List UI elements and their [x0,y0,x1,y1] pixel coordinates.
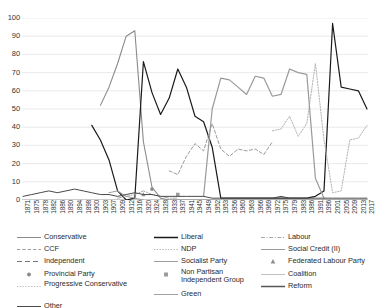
series-ndp [272,64,367,193]
legend-key-icon [260,243,286,255]
x-axis-tick-label: 1920 [146,200,153,214]
legend-item[interactable]: Coalition [260,268,379,280]
legend-label: CCF [44,243,59,253]
legend-key [16,268,44,280]
legend-label: Reform [288,280,312,290]
legend-key-icon [16,280,42,292]
legend-key-icon [153,243,179,255]
series-ccf [169,124,272,175]
x-axis-tick-label: 1941 [189,200,196,214]
legend-item[interactable]: Non Partisan Independent Group [153,268,263,288]
y-axis-tick-label: 90 [0,32,20,40]
legend-item[interactable]: Provincial Party [16,268,151,280]
x-axis-tick-label: 1949 [206,200,213,214]
x-axis-tick-label: 1991 [318,200,325,214]
legend-key [260,268,288,280]
legend-item[interactable]: Labour [260,231,379,243]
plot-svg [22,18,368,200]
x-axis-tick-label: 1928 [163,200,170,214]
legend-item[interactable]: Other [16,300,151,308]
legend-label: Socialist Party [181,255,227,265]
legend-label: Liberal [181,231,203,241]
x-axis-tick-label: 1933 [172,200,179,214]
x-axis-tick-label: 1937 [180,200,187,214]
x-axis-tick-label: 1903 [103,200,110,214]
legend-key-icon [260,231,286,243]
y-axis-tick-label: 0 [0,196,20,204]
legend-key [260,243,288,255]
x-axis-tick-label: 2005 [344,200,351,214]
legend-label: Other [44,300,62,308]
x-axis-tick-label: 1894 [77,200,84,214]
legend-label: Coalition [288,268,316,278]
x-axis-tick-label: 1986 [309,200,316,214]
legend-label: Independent [44,255,85,265]
legend-key [16,280,44,292]
x-axis-tick-label: 1924 [154,200,161,214]
x-axis-tick-label: 2013 [361,200,368,214]
legend-item[interactable]: Independent [16,255,151,267]
legend-key-icon [153,288,179,300]
series-line [272,64,367,193]
series-provincial-party [150,187,154,191]
legend-item[interactable]: Reform [260,280,379,292]
legend-key [16,231,44,243]
x-axis-tick-label: 2001 [335,200,342,214]
legend-column-3: LabourSocial Credit (II)Federated Labour… [260,231,379,292]
y-axis-tick-label: 10 [0,178,20,186]
legend-key [16,300,44,308]
x-axis-tick-label: 1979 [292,200,299,214]
x-axis-tick-label: 1900 [94,200,101,214]
legend-item[interactable]: NDP [153,243,263,255]
series-social-credit-ii- [204,69,324,198]
legend-key-icon [16,255,42,267]
x-axis-tick-label: 1907 [111,200,118,214]
x-axis-tick-label: 1871 [25,200,32,214]
y-axis-tick-label: 80 [0,50,20,58]
y-axis-tick-label: 70 [0,69,20,77]
legend-key [153,255,181,267]
x-axis-tick-label: 1975 [283,200,290,214]
x-axis-tick-label: 1878 [43,200,50,214]
legend-label: Green [181,288,201,298]
x-axis-tick-label: 1912 [129,200,136,214]
chart-legend: ConservativeCCFIndependentProvincial Par… [8,231,370,305]
data-point [176,193,180,197]
legend-column-2: LiberalNDPSocialist PartyNon Partisan In… [153,231,263,300]
legend-key [260,255,288,267]
legend-key [153,288,181,300]
legend-label: Social Credit (II) [288,243,340,253]
legend-key [260,231,288,243]
series-line [92,23,367,200]
x-axis-tick-label: 1956 [232,200,239,214]
x-axis-tick-label: 1972 [275,200,282,214]
y-axis-tick-label: 40 [0,123,20,131]
series-liberal [92,23,367,200]
legend-key [153,231,181,243]
legend-item[interactable]: Federated Labour Party [260,255,379,267]
y-axis-tick-label: 60 [0,87,20,95]
legend-item[interactable]: Green [153,288,263,300]
x-axis-tick-label: 1898 [86,200,93,214]
legend-key-icon [153,255,179,267]
legend-key-icon [16,243,42,255]
legend-item[interactable]: Progressive Conservative [16,280,151,300]
legend-item[interactable]: Social Credit (II) [260,243,379,255]
legend-label: Progressive Conservative [44,280,127,288]
x-axis-tick-label: 1945 [197,200,204,214]
legend-item[interactable]: CCF [16,243,151,255]
x-axis-tick-label: 1963 [249,200,256,214]
x-axis-tick-label: 1960 [240,200,247,214]
x-axis-tick-label: 1952 [215,200,222,214]
legend-item[interactable]: Liberal [153,231,263,243]
y-axis-tick-label: 50 [0,105,20,113]
legend-label: Non Partisan Independent Group [181,268,263,284]
legend-label: NDP [181,243,196,253]
x-axis: 1871187518781882188618901894189819001903… [22,200,368,226]
legend-item[interactable]: Conservative [16,231,151,243]
legend-key [16,243,44,255]
legend-key [153,268,181,280]
legend-item[interactable]: Socialist Party [153,255,263,267]
plot-area [22,18,368,200]
